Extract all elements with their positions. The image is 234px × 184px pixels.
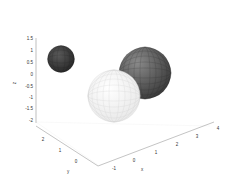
z-axis: 1.5 1 0.5 0 -0.5 -1 -1.5 -2 z [12, 36, 36, 123]
x-tick: -1 [112, 166, 116, 171]
y-tick: 1 [59, 148, 62, 153]
z-tick: -0.5 [25, 84, 33, 89]
z-tick: -2 [29, 118, 33, 123]
z-axis-label: z [12, 81, 17, 84]
z-tick: 1.5 [27, 36, 34, 41]
y-tick: 0 [75, 159, 78, 164]
x-tick: 4 [217, 126, 220, 131]
z-tick: 0 [30, 72, 33, 77]
x-tick: 2 [176, 142, 179, 147]
x-axis: -1 0 1 2 3 4 x [98, 122, 220, 172]
x-tick: 3 [196, 134, 199, 139]
large-white-sphere [88, 70, 140, 122]
z-tick: -1.5 [25, 106, 33, 111]
z-tick: -1 [29, 95, 33, 100]
y-axis-label: y [67, 169, 70, 174]
x-tick: 0 [133, 158, 136, 163]
y-tick: 2 [42, 137, 45, 142]
sphere-plot-3d: 1.5 1 0.5 0 -0.5 -1 -1.5 -2 z 0 1 2 y -1… [0, 0, 234, 184]
z-tick: 1 [30, 48, 33, 53]
y-axis: 0 1 2 y [36, 126, 98, 174]
z-tick: 0.5 [27, 60, 34, 65]
x-tick: 1 [155, 150, 158, 155]
x-axis-label: x [141, 167, 144, 172]
small-dark-sphere [48, 46, 75, 73]
